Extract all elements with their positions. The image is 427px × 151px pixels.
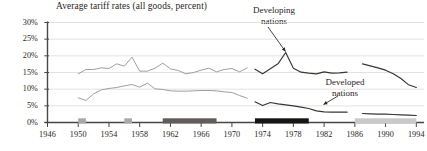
y-axis-label-10%: 10%	[12, 84, 38, 93]
round-bar-2	[124, 118, 132, 123]
x-axis-label-1954: 1954	[94, 130, 124, 139]
x-axis-label-1982: 1982	[309, 130, 339, 139]
x-axis-label-1994: 1994	[401, 130, 427, 139]
series-line-developed-nations-1987-1994	[363, 114, 417, 116]
y-axis-ticks	[44, 23, 49, 123]
y-axis-label-20%: 20%	[12, 51, 38, 60]
round-bar-1	[78, 118, 86, 123]
x-axis-label-1946: 1946	[33, 130, 63, 139]
y-axis-label-0%: 0%	[12, 118, 38, 127]
x-axis-label-1962: 1962	[155, 130, 185, 139]
y-axis-label-5%: 5%	[12, 101, 38, 110]
arrow-developing-nations-head	[282, 47, 286, 51]
axes	[45, 22, 425, 123]
x-axis-label-1966: 1966	[186, 130, 216, 139]
round-bar-4	[255, 118, 309, 123]
gridlines	[48, 23, 425, 106]
y-axis-label-30%: 30%	[12, 18, 38, 27]
x-axis-label-1950: 1950	[63, 130, 93, 139]
round-bar-5	[355, 118, 416, 123]
series-line-developing-nations-1987-1994	[363, 64, 417, 88]
round-bar-3	[163, 118, 217, 123]
chart-plot-area	[0, 0, 427, 151]
series-line-developing-nations-1950-1972	[78, 57, 247, 74]
annotation-arrows	[268, 27, 338, 105]
x-axis-label-1986: 1986	[340, 130, 370, 139]
series-line-developed-nations-1950-1972	[78, 83, 247, 100]
x-axis-label-1974: 1974	[248, 130, 278, 139]
y-axis-label-15%: 15%	[12, 68, 38, 77]
x-axis-label-1970: 1970	[217, 130, 247, 139]
chart-figure: Average tariff rates (all goods, percent…	[0, 0, 427, 151]
x-axis-label-1978: 1978	[278, 130, 308, 139]
y-axis-label-25%: 25%	[12, 34, 38, 43]
x-axis-label-1990: 1990	[371, 130, 401, 139]
x-axis-label-1958: 1958	[125, 130, 155, 139]
series-line-developed-nations-1973-1985	[255, 102, 347, 112]
